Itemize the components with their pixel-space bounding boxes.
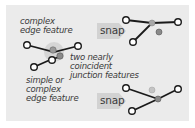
label-line: edge feature	[20, 26, 72, 35]
junction-label: two nearly coincident junction features	[70, 53, 139, 80]
junction-2-icon	[57, 53, 63, 59]
edge-endpoint-icon	[31, 64, 38, 71]
edge-endpoint-icon	[175, 19, 182, 26]
simple-edge-label: simple or complex edge feature	[26, 76, 78, 103]
edge-endpoint-icon	[175, 86, 182, 93]
edge-endpoint-icon	[130, 39, 137, 46]
edge-endpoint-icon	[123, 85, 130, 92]
edge-endpoint-icon	[49, 57, 56, 64]
edge-endpoint-icon	[129, 108, 136, 115]
label-line: edge feature	[26, 94, 78, 103]
snapped-junction-icon	[155, 96, 161, 102]
snap-bottom-label: snap	[100, 93, 124, 108]
edge-endpoint-icon	[75, 43, 82, 50]
snap-top: snap	[97, 23, 127, 39]
orphan-junction-icon	[156, 29, 162, 35]
junction-1-icon	[50, 47, 56, 53]
snap-bottom: snap	[97, 93, 127, 109]
snap-top-label: snap	[100, 23, 124, 38]
ghost-junction-icon	[149, 87, 155, 93]
edge-endpoint-icon	[24, 42, 31, 49]
snapped-junction-icon	[149, 20, 155, 26]
complex-edge-label: complex edge feature	[20, 17, 72, 35]
label-line: junction features	[70, 71, 139, 80]
